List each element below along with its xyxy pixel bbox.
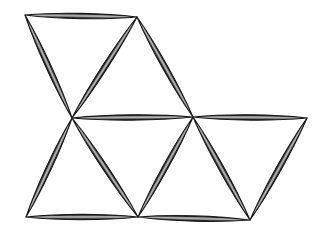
strut-lattice-diagram bbox=[0, 0, 329, 232]
figure-canvas bbox=[0, 0, 329, 232]
strut-bottom-left-horizontal bbox=[26, 214, 138, 219]
